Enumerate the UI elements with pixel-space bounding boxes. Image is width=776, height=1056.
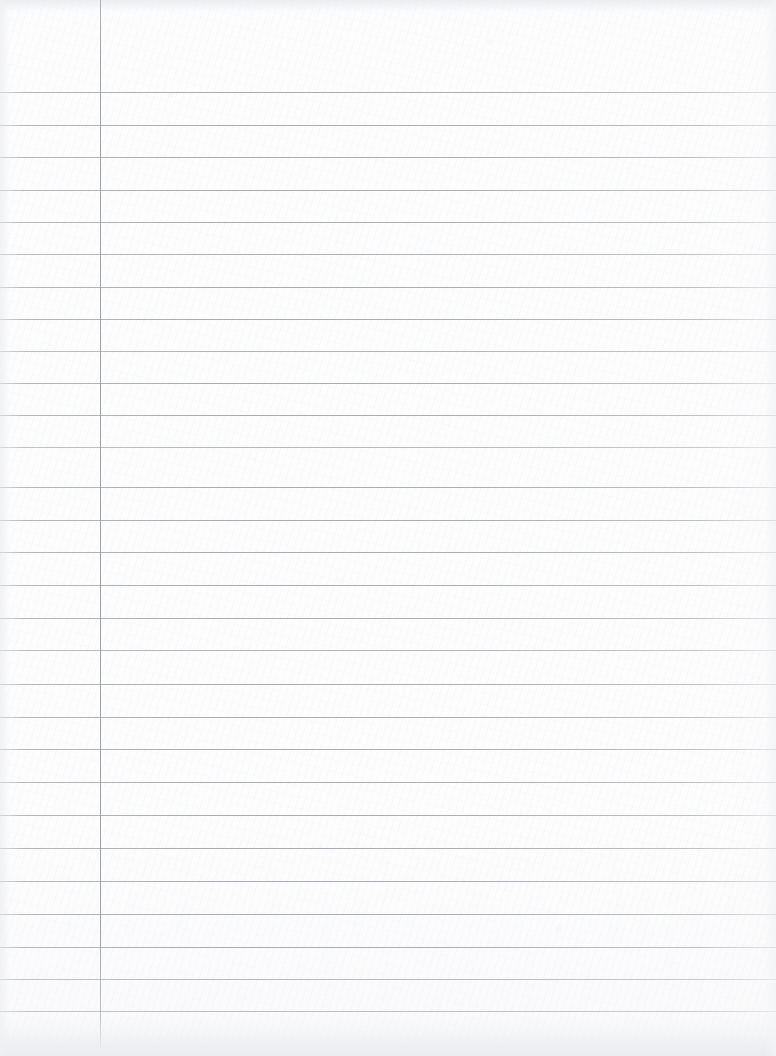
paper-background [0, 0, 776, 1056]
ruled-paper-page: Blank Ruled Notebook Page Scanned blank … [0, 0, 776, 1056]
